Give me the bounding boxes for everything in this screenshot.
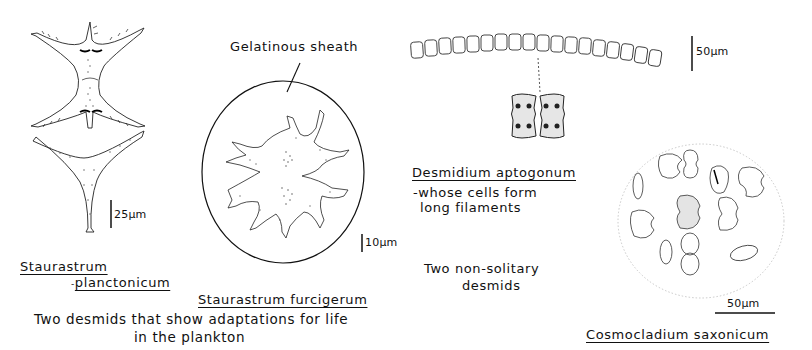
scale-label-50um-colony: 50µm — [727, 298, 760, 309]
desmidium-description-line1: -whose cells form — [413, 186, 537, 199]
sheath-pointer-line — [287, 63, 300, 92]
scale-label-10um: 10µm — [365, 237, 398, 248]
plankton-caption-line1: Two desmids that show adaptations for li… — [34, 313, 348, 327]
detail-connector-dashed — [538, 58, 540, 92]
species-label-cosmocladium-saxonicum: Cosmocladium saxonicum — [586, 328, 769, 341]
cosmocladium-colony-drawing — [618, 144, 784, 298]
staurastrum-furcigerum-drawing — [202, 63, 364, 263]
species-label-staurastrum-planctonicum-genus: Staurastrum — [20, 260, 108, 273]
non-solitary-caption-line2: desmids — [462, 279, 521, 292]
species-label-staurastrum-furcigerum: Staurastrum furcigerum — [198, 293, 367, 306]
gelatinous-sheath-annotation: Gelatinous sheath — [230, 40, 358, 53]
scale-label-50um-filament: 50µm — [696, 46, 729, 57]
non-solitary-caption-line1: Two non-solitary — [424, 262, 539, 275]
desmid-illustrations — [0, 0, 812, 350]
desmidium-description-line2: long filaments — [420, 201, 521, 214]
desmidium-cell-detail — [512, 94, 565, 138]
desmidium-filament-drawing — [410, 34, 662, 138]
scale-label-25um: 25µm — [114, 209, 147, 220]
staurastrum-planctonicum-drawing — [31, 22, 145, 232]
gelatinous-sheath-outline — [202, 81, 364, 263]
species-label-desmidium-aptogonum: Desmidium aptogonum — [412, 166, 576, 179]
plankton-caption-line2: in the plankton — [134, 331, 245, 345]
species-label-staurastrum-planctonicum-epithet: -planctonicum — [71, 276, 170, 289]
epithet-text: planctonicum — [75, 275, 170, 290]
